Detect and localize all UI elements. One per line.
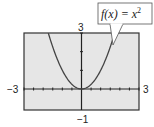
x-max-label: 3: [143, 84, 149, 95]
graph: f(x) = x2 3 −1 −3 3: [0, 0, 154, 127]
y-min-label: −1: [77, 114, 89, 125]
x-min-label: −3: [7, 84, 19, 95]
y-max-label: 3: [78, 22, 84, 33]
function-label: f(x) = x2: [101, 6, 141, 21]
